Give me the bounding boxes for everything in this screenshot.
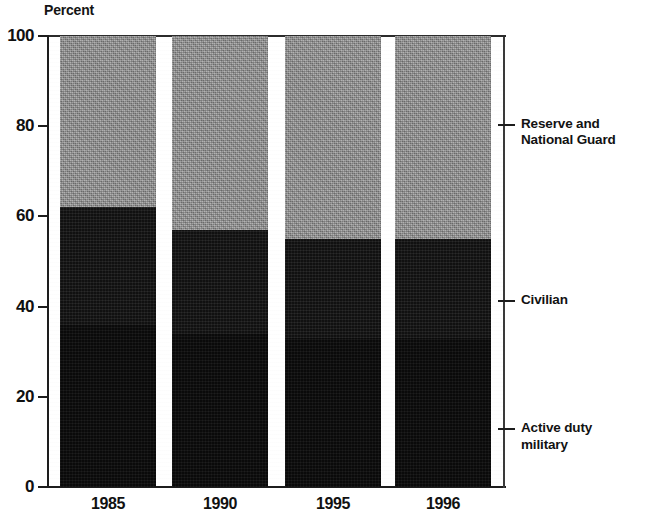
bar-segment-active-duty-military [172,334,268,487]
y-axis-tick-label: 0 [25,477,34,497]
bar-segment-civilian [172,230,268,334]
x-axis-label-1996: 1996 [426,495,460,513]
bar-segment-reserve-and-national-guard [172,36,268,230]
y-axis-tick-label: 100 [7,26,34,46]
legend-leader-line [498,300,515,302]
x-axis-label-1985: 1985 [91,495,125,513]
legend-label-reserve-and-national-guard: Reserve and National Guard [521,116,616,149]
bar-segment-civilian [395,239,491,338]
bar-segment-reserve-and-national-guard [60,36,156,207]
bar-1996 [395,36,491,487]
x-axis-label-1995: 1995 [316,495,350,513]
y-axis-tick-label: 40 [16,297,34,317]
y-axis-tick-label: 60 [16,206,34,226]
bar-group [47,36,505,487]
bar-1990 [172,36,268,487]
bar-segment-reserve-and-national-guard [285,36,381,239]
legend-leader-line [498,124,515,126]
legend-leader-line [498,428,515,430]
bar-segment-reserve-and-national-guard [395,36,491,239]
y-axis-tick-label: 20 [16,387,34,407]
bar-segment-civilian [285,239,381,338]
bar-segment-active-duty-military [395,338,491,487]
plot-area: 020406080100 [47,36,505,487]
bar-segment-active-duty-military [60,325,156,487]
bar-segment-civilian [60,207,156,324]
bar-1985 [60,36,156,487]
bar-1995 [285,36,381,487]
y-axis-title: Percent [44,2,94,18]
legend-label-civilian: Civilian [521,292,568,308]
chart-page: Percent 020406080100 1985199019951996 Re… [0,0,653,522]
legend-label-active-duty-military: Active duty military [521,420,592,453]
y-axis-tick-label: 80 [16,116,34,136]
bar-segment-active-duty-military [285,338,381,487]
x-axis-label-1990: 1990 [203,495,237,513]
